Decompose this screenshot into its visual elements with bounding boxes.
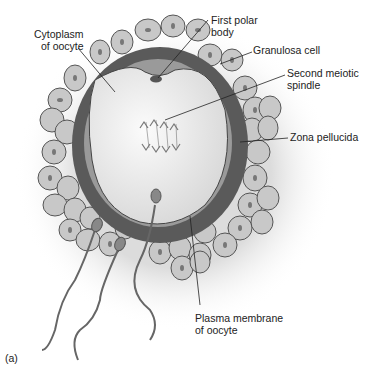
oocyte-diagram: Cytoplasm of oocyte First polar body Gra… xyxy=(0,0,373,372)
label-plasma-membrane: Plasma membrane of oocyte xyxy=(195,312,283,336)
first-polar-body xyxy=(150,76,162,83)
label-granulosa-cell: Granulosa cell xyxy=(253,44,320,56)
label-first-polar-body: First polar body xyxy=(211,14,258,38)
panel-label: (a) xyxy=(5,352,18,364)
label-second-meiotic-spindle: Second meiotic spindle xyxy=(287,67,359,91)
label-zona-pellucida: Zona pellucida xyxy=(290,131,358,143)
label-cytoplasm: Cytoplasm of oocyte xyxy=(34,28,84,52)
